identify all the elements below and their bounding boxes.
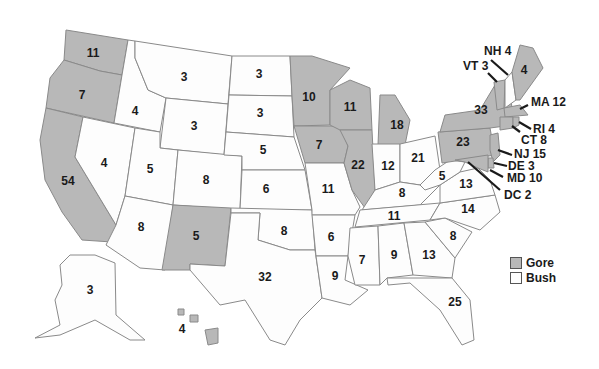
label-az: 8	[138, 220, 145, 234]
label-il: 22	[351, 158, 365, 172]
label-ks: 6	[263, 182, 270, 196]
label-ak: 3	[87, 283, 94, 297]
label-nm: 5	[193, 229, 200, 243]
label-ok: 8	[281, 224, 288, 238]
callout-ma: MA 12	[531, 95, 566, 109]
label-wa: 11	[87, 46, 100, 60]
state-de	[488, 158, 494, 168]
legend-item-bush: Bush	[510, 270, 556, 285]
label-wv: 5	[439, 169, 446, 183]
us-electoral-map: 11 7 54 4 4 3 3 5 8 8 5 3 3 5 6 8 32 10 …	[0, 0, 599, 369]
callout-ct: CT 8	[521, 133, 547, 147]
callout-nh: NH 4	[484, 44, 512, 58]
label-nc: 14	[461, 202, 475, 216]
label-tn: 11	[388, 209, 401, 223]
label-mo: 11	[322, 182, 335, 196]
label-ky: 8	[399, 186, 406, 200]
callout-dc: DC 2	[504, 188, 532, 202]
state-fl	[387, 278, 474, 345]
label-wi: 11	[344, 100, 357, 114]
callout-md: MD 10	[507, 171, 543, 185]
label-or: 7	[79, 88, 86, 102]
legend-item-gore: Gore	[510, 255, 556, 270]
label-va: 13	[459, 177, 473, 191]
label-sd: 3	[257, 106, 264, 120]
label-mt: 3	[181, 70, 188, 84]
gore-swatch-icon	[510, 257, 522, 269]
map-legend: Gore Bush	[510, 255, 556, 285]
label-ny: 33	[474, 103, 488, 117]
label-nd: 3	[256, 67, 263, 81]
label-ne: 5	[260, 143, 267, 157]
label-nv: 4	[101, 156, 108, 170]
label-hi: 4	[179, 322, 186, 336]
label-mn: 10	[302, 90, 316, 104]
state-ct	[500, 117, 513, 130]
label-pa: 23	[456, 135, 470, 149]
label-al: 9	[391, 248, 398, 262]
label-id: 4	[132, 104, 139, 118]
label-tx: 32	[258, 270, 272, 284]
label-ms: 7	[359, 253, 366, 267]
label-ut: 5	[147, 162, 154, 176]
label-wy: 3	[191, 119, 198, 133]
label-fl: 25	[448, 295, 462, 309]
label-ga: 13	[422, 248, 436, 262]
state-me	[512, 45, 543, 100]
label-mi: 18	[390, 118, 404, 132]
state-ak	[35, 255, 145, 340]
label-oh: 21	[411, 151, 425, 165]
state-ks	[240, 170, 312, 210]
label-ca: 54	[61, 174, 75, 188]
legend-label-gore: Gore	[526, 256, 554, 270]
label-co: 8	[203, 173, 210, 187]
bush-swatch-icon	[510, 272, 522, 284]
legend-label-bush: Bush	[526, 271, 556, 285]
label-me: 4	[521, 63, 528, 77]
label-in: 12	[381, 159, 395, 173]
callout-vt: VT 3	[463, 59, 489, 73]
label-ar: 6	[328, 230, 335, 244]
label-ia: 7	[316, 138, 323, 152]
label-sc: 8	[450, 229, 457, 243]
label-la: 9	[332, 269, 339, 283]
